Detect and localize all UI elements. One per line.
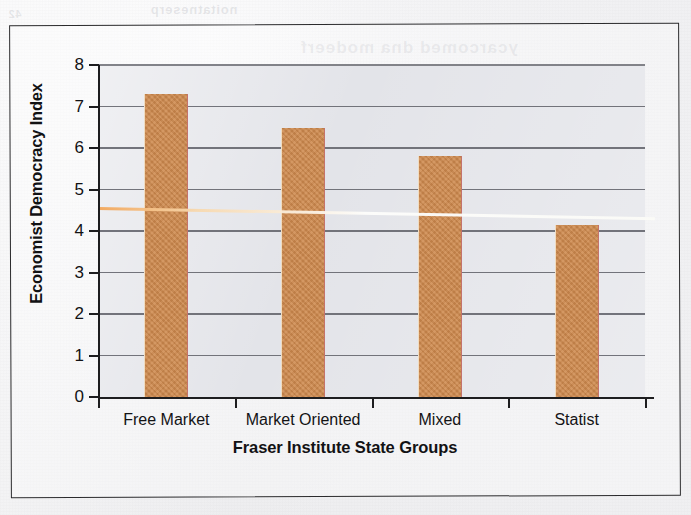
y-tick-1 <box>89 355 99 357</box>
x-tick-1 <box>235 399 237 408</box>
x-tick-end <box>645 399 647 408</box>
y-tick-label-5: 5 <box>62 181 84 198</box>
y-axis-title: Economist Democracy Index <box>27 74 46 314</box>
y-tick-label-0: 0 <box>62 388 84 405</box>
y-tick-label-6: 6 <box>62 139 84 156</box>
x-axis-line <box>98 397 654 399</box>
bar-free-market <box>144 94 188 397</box>
x-tick-label-market-oriented: Market Oriented <box>235 411 372 429</box>
x-tick-label-statist: Statist <box>508 411 645 429</box>
y-tick-label-2: 2 <box>62 305 84 322</box>
y-tick-label-7: 7 <box>62 98 84 115</box>
x-axis-title: Fraser Institute State Groups <box>10 438 680 457</box>
y-tick-3 <box>89 272 99 274</box>
gridline-8 <box>98 64 645 66</box>
y-tick-5 <box>89 189 99 191</box>
y-tick-8 <box>89 64 99 66</box>
bar-market-oriented <box>281 128 325 397</box>
y-tick-label-4: 4 <box>62 222 84 239</box>
y-tick-label-3: 3 <box>62 264 84 281</box>
x-tick-3 <box>508 399 510 408</box>
bar-statist <box>555 225 599 397</box>
x-tick-label-free-market: Free Market <box>98 411 235 429</box>
bar-mixed <box>418 156 462 397</box>
y-axis-line <box>98 65 100 399</box>
plot-area <box>98 65 645 397</box>
y-tick-4 <box>89 230 99 232</box>
x-tick-2 <box>372 399 374 408</box>
y-tick-2 <box>89 313 99 315</box>
bar-chart: Economist Democracy Index 012345678 Free… <box>10 24 680 497</box>
x-tick-label-mixed: Mixed <box>372 411 509 429</box>
y-tick-6 <box>89 147 99 149</box>
y-tick-label-8: 8 <box>62 56 84 73</box>
y-tick-7 <box>89 106 99 108</box>
y-tick-label-1: 1 <box>62 347 84 364</box>
x-tick-0 <box>98 399 100 408</box>
